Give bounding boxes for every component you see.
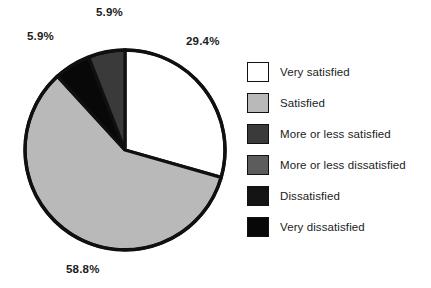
legend-item-label: More or less satisfied [280,128,391,140]
legend-item-label: Very satisfied [280,66,350,78]
legend-swatch-icon [247,93,269,113]
legend-swatch-icon [247,62,269,82]
legend-item-very-satisfied[interactable]: Very satisfied [247,61,431,83]
pie-chart-figure: 5.9% 5.9% 29.4% 58.8% Very satisfied Sat… [0,0,431,288]
chart-legend: Very satisfied Satisfied More or less sa… [247,61,431,238]
legend-item-very-dissatisfied[interactable]: Very dissatisfied [247,216,431,238]
pie-data-label-satisfied: 58.8% [66,263,100,275]
pie-data-label-very-satisfied: 29.4% [186,35,220,47]
legend-swatch-icon [247,186,269,206]
pie-chart-svg [23,48,227,252]
legend-item-dissatisfied[interactable]: Dissatisfied [247,185,431,207]
legend-item-more-or-less-satisfied[interactable]: More or less satisfied [247,123,431,145]
legend-item-label: Satisfied [280,97,325,109]
legend-item-more-or-less-dissatisfied[interactable]: More or less dissatisfied [247,154,431,176]
legend-item-label: More or less dissatisfied [280,159,406,171]
legend-swatch-icon [247,155,269,175]
pie-data-label-more-or-less-satisfied: 5.9% [96,6,123,18]
pie-chart-plot-area: 5.9% 5.9% 29.4% 58.8% [0,0,250,288]
legend-item-label: Dissatisfied [280,190,340,202]
legend-swatch-icon [247,124,269,144]
legend-item-satisfied[interactable]: Satisfied [247,92,431,114]
legend-item-label: Very dissatisfied [280,221,365,233]
legend-swatch-icon [247,217,269,237]
pie-data-label-very-dissatisfied: 5.9% [27,30,54,42]
